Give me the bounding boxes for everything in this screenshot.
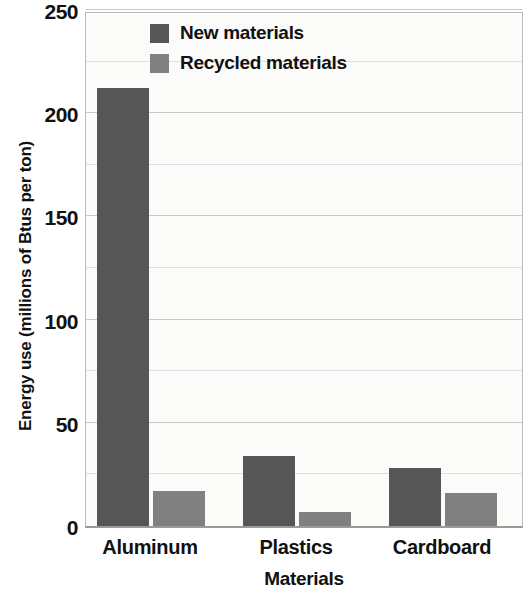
bar	[445, 493, 497, 526]
legend: New materialsRecycled materials	[150, 18, 347, 78]
legend-swatch-icon	[150, 54, 169, 73]
bar	[153, 491, 205, 526]
x-axis-tick-labels: AluminumPlasticsCardboard	[85, 536, 523, 566]
x-axis-tick-label: Cardboard	[393, 536, 491, 559]
legend-swatch-icon	[150, 24, 169, 43]
legend-entry: New materials	[150, 18, 347, 48]
y-axis-tick-label: 250	[20, 0, 78, 24]
bar	[243, 456, 295, 526]
legend-entry: Recycled materials	[150, 48, 347, 78]
bars-layer	[86, 13, 522, 526]
y-axis-tick-label: 50	[20, 413, 78, 437]
x-axis-tick-label: Aluminum	[102, 536, 197, 559]
y-axis-tick-label: 100	[20, 310, 78, 334]
bar-chart-figure: Energy use (millions of Btus per ton) 05…	[0, 0, 530, 600]
plot-area	[85, 12, 523, 528]
y-axis-tick-label: 150	[20, 206, 78, 230]
y-axis-tick-label: 200	[20, 103, 78, 127]
bar	[97, 88, 149, 526]
bar	[389, 468, 441, 526]
gridline	[86, 9, 522, 10]
bar	[299, 512, 351, 526]
x-axis-tick-label: Plastics	[259, 536, 332, 559]
legend-label: New materials	[180, 22, 304, 44]
y-axis-tick-labels: 050100150200250	[20, 0, 78, 540]
y-axis-tick-label: 0	[20, 516, 78, 540]
legend-label: Recycled materials	[180, 52, 347, 74]
x-axis-title: Materials	[85, 568, 523, 590]
